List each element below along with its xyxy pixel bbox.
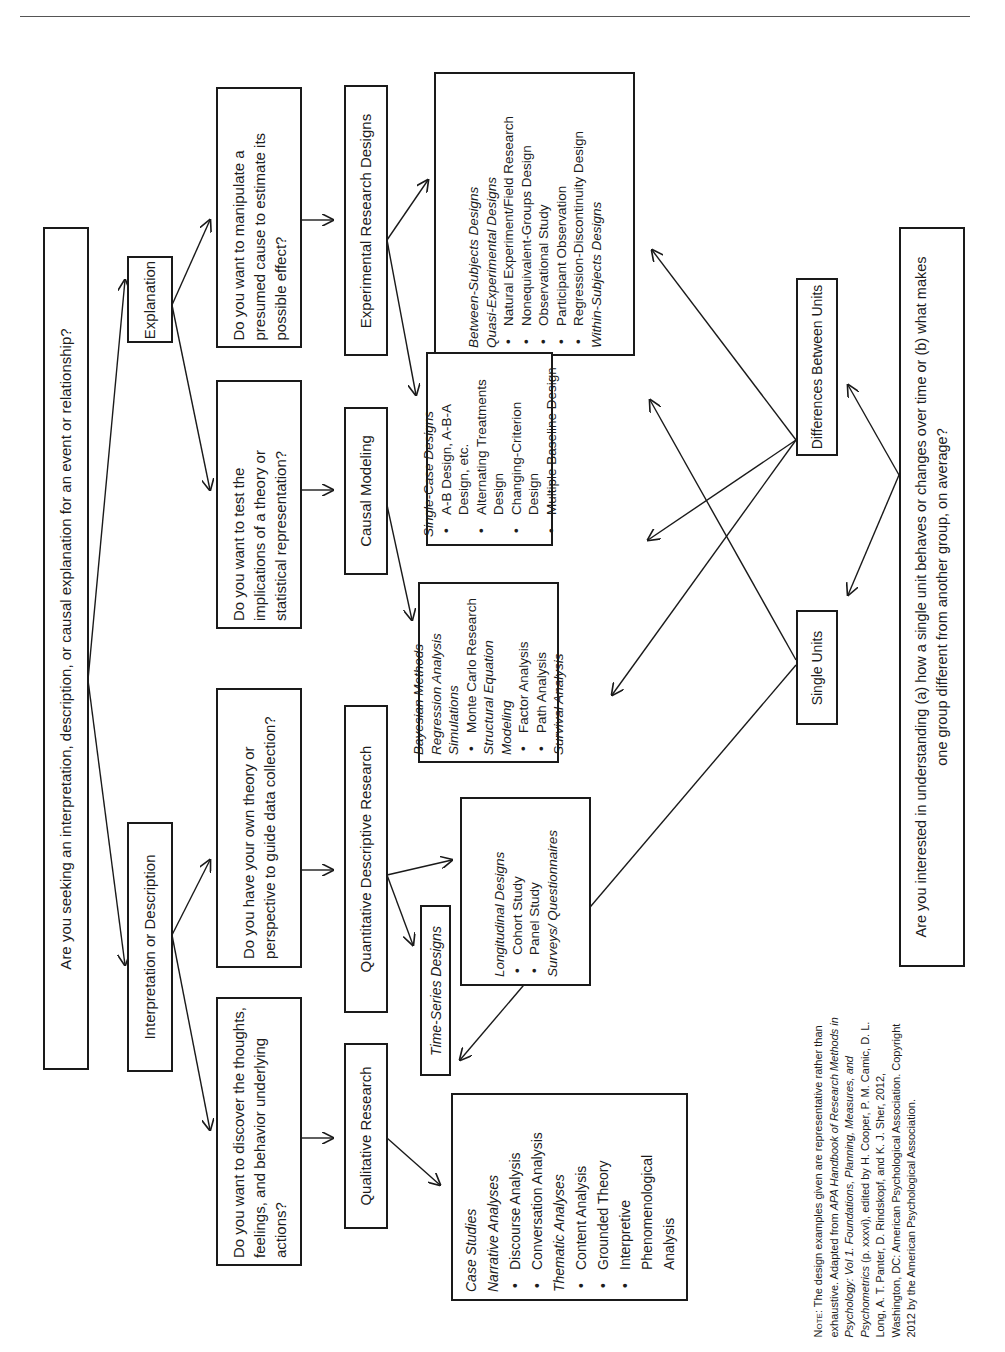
differences-between-units-label: Differences Between Units <box>807 285 827 450</box>
causal-modeling-label: Causal Modeling <box>356 435 376 547</box>
list-item: Changing-Criterion Design <box>507 361 542 537</box>
single-units-box: Single Units <box>796 610 838 725</box>
longitudinal-box: Longitudinal Designs Cohort Study Panel … <box>460 797 591 986</box>
manipulate-question-box: Do you want to manipulate a presumed cau… <box>216 87 302 348</box>
list-heading: Bayesian Methods <box>410 591 428 755</box>
manipulate-question: Do you want to manipulate a presumed cau… <box>228 95 291 340</box>
list-item: Grounded Theory <box>592 1102 614 1292</box>
list-item: Participant Observation <box>552 80 570 348</box>
longitudinal-list: Longitudinal Designs Cohort Study Panel … <box>491 807 561 977</box>
causal-modeling-box: Causal Modeling <box>344 407 388 575</box>
list-item: Conversation Analysis <box>526 1102 548 1292</box>
differences-between-units-box: Differences Between Units <box>796 278 838 456</box>
single-case-box: Single-Case Designs A-B Design, A-B-A De… <box>426 352 553 546</box>
list-heading: Longitudinal Designs <box>491 807 509 977</box>
list-heading: Narrative Analyses <box>482 1102 504 1292</box>
explanation-box: Explanation <box>127 256 173 343</box>
note-adapted-prefix: Adapted from <box>827 1210 839 1279</box>
list-heading: Thematic Analyses <box>548 1102 570 1292</box>
test-question-box: Do you want to test the implications of … <box>216 380 302 629</box>
quant-desc-label: Quantitative Descriptive Research <box>356 746 376 973</box>
units-question-box: Are you interested in understanding (a) … <box>899 227 965 967</box>
list-item: A-B Design, A-B-A Design, etc. <box>437 361 472 537</box>
list-heading: Case Studies <box>460 1102 482 1292</box>
qualitative-label: Qualitative Research <box>356 1066 376 1205</box>
single-units-label: Single Units <box>807 630 827 705</box>
list-item: Interpretive Phenomenological Analysis <box>614 1102 680 1292</box>
between-subjects-list: Between-Subjects Designs Quasi-Experimen… <box>465 80 605 348</box>
list-item: Nonequivalent-Groups Design <box>517 80 535 348</box>
experimental-label: Experimental Research Designs <box>356 113 376 327</box>
list-heading: Regression Analysis <box>427 591 445 755</box>
list-heading: Surveys/ Questionnaires <box>543 807 561 977</box>
causal-methods-box: Bayesian Methods Regression Analysis Sim… <box>418 582 559 763</box>
list-heading: Structural Equation Modeling <box>480 591 515 755</box>
note-block: Note: The design examples given are repr… <box>770 1010 960 1340</box>
list-heading: Survival Analysis <box>550 591 568 755</box>
quant-desc-box: Quantitative Descriptive Research <box>344 705 388 1013</box>
interpretation-label: Interpretation or Description <box>140 854 160 1039</box>
between-subjects-box: Between-Subjects Designs Quasi-Experimen… <box>434 72 635 356</box>
list-item: Cohort Study <box>508 807 526 977</box>
units-question: Are you interested in understanding (a) … <box>911 247 953 947</box>
list-item: Content Analysis <box>570 1102 592 1292</box>
list-item: Factor Analysis <box>515 591 533 755</box>
list-item: Alternating Treatments Design <box>472 361 507 537</box>
qualitative-methods-box: Case Studies Narrative Analyses Discours… <box>451 1093 688 1301</box>
qualitative-methods-list: Case Studies Narrative Analyses Discours… <box>460 1102 680 1292</box>
time-series-box: Time-Series Designs <box>420 905 451 1076</box>
list-heading: Within-Subjects Designs <box>587 80 605 348</box>
test-question: Do you want to test the implications of … <box>228 389 291 621</box>
list-item: Multiple Baseline Design <box>542 361 560 537</box>
discover-question: Do you want to discover the thoughts, fe… <box>228 1006 291 1258</box>
list-item: Monte Carlo Research <box>462 591 480 755</box>
root-question: Are you seeking an interpretation, descr… <box>56 234 76 1064</box>
list-heading: Single-Case Designs <box>420 361 438 537</box>
single-case-list: Single-Case Designs A-B Design, A-B-A De… <box>420 361 560 537</box>
list-heading: Quasi-Experimental Designs <box>482 80 500 348</box>
own-theory-question: Do you have your own theory or perspecti… <box>238 697 280 959</box>
list-item: Observational Study <box>535 80 553 348</box>
list-item: Regression-Discontinuity Design <box>570 80 588 348</box>
experimental-box: Experimental Research Designs <box>344 85 388 356</box>
interpretation-box: Interpretation or Description <box>127 822 173 1072</box>
root-question-box: Are you seeking an interpretation, descr… <box>43 227 89 1070</box>
discover-question-box: Do you want to discover the thoughts, fe… <box>216 997 302 1266</box>
note-label: Note: <box>812 1310 824 1337</box>
list-heading: Between-Subjects Designs <box>465 80 483 348</box>
note-text: Note: The design examples given are repr… <box>811 1013 920 1338</box>
list-item: Path Analysis <box>532 591 550 755</box>
list-item: Panel Study <box>526 807 544 977</box>
causal-methods-list: Bayesian Methods Regression Analysis Sim… <box>410 591 568 755</box>
qualitative-box: Qualitative Research <box>344 1043 388 1229</box>
list-heading: Simulations <box>445 591 463 755</box>
list-item: Natural Experiment/Field Research <box>500 80 518 348</box>
list-item: Discourse Analysis <box>504 1102 526 1292</box>
time-series-label: Time-Series Designs <box>426 926 446 1056</box>
explanation-label: Explanation <box>140 260 160 338</box>
own-theory-question-box: Do you have your own theory or perspecti… <box>216 688 302 968</box>
